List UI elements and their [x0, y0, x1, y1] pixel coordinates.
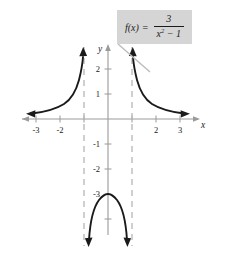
- y-tick-label--1: -1: [93, 139, 100, 149]
- formula-fraction: 3 x2 − 1: [154, 14, 184, 39]
- x-tick-label--2: -2: [56, 125, 63, 135]
- curve-left-branch: [32, 57, 83, 114]
- formula-denominator: x2 − 1: [154, 28, 184, 40]
- formula-fx: f(x): [125, 22, 139, 33]
- formula-denominator-exponent: 2: [161, 27, 164, 34]
- formula-numerator: 3: [163, 14, 174, 25]
- formula-denominator-rest: − 1: [167, 28, 181, 39]
- x-tick-label-2: 2: [154, 125, 158, 135]
- y-axis-label: y: [97, 44, 103, 54]
- function-callout-box: f(x) = 3 x2 − 1: [117, 10, 192, 44]
- y-tick-label-2: 2: [96, 64, 100, 74]
- x-axis-right-arrowhead: [193, 116, 200, 122]
- curve-right-branch-right-arrowhead: [181, 110, 190, 117]
- formula-equals: =: [142, 22, 149, 33]
- curve-middle-branch-left-arrowhead: [85, 238, 93, 248]
- y-tick-label--3: -3: [93, 189, 100, 199]
- function-formula: f(x) = 3 x2 − 1: [117, 10, 192, 44]
- y-axis-top-arrowhead: [105, 44, 111, 51]
- curve-middle-branch-right-arrowhead: [124, 238, 132, 248]
- x-tick-label--3: -3: [32, 125, 39, 135]
- function-graph-figure: y x -3 -2 2 3 2 1 -1 -2 -3: [0, 0, 226, 253]
- curve-left-branch-up-arrowhead: [79, 47, 87, 56]
- x-axis-left-arrowhead: [22, 116, 29, 122]
- curve-right-branch: [133, 57, 184, 114]
- x-tick-label-3: 3: [178, 125, 182, 135]
- x-axis-label: x: [200, 120, 206, 130]
- formula-fraction-bar: [154, 26, 184, 27]
- curve-left-branch-left-arrowhead: [26, 110, 35, 117]
- y-tick-label-1: 1: [96, 89, 100, 99]
- y-tick-label--2: -2: [93, 164, 100, 174]
